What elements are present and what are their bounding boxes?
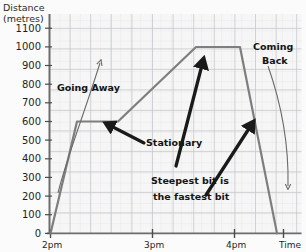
annotation-stationary: Stationary bbox=[146, 137, 203, 148]
y-tick-label-1000: 1000 bbox=[16, 41, 41, 52]
y-tick-label-300: 300 bbox=[22, 172, 41, 183]
annotation-coming-back-line1: Coming bbox=[253, 41, 293, 52]
y-tick-label-600: 600 bbox=[22, 116, 41, 127]
distance-time-chart: Distance (metres) 0 100 200 300 400 500 … bbox=[0, 0, 306, 252]
y-axis-title-line1: Distance bbox=[3, 2, 45, 13]
y-tick-label-400: 400 bbox=[22, 153, 41, 164]
chart-svg: Distance (metres) 0 100 200 300 400 500 … bbox=[0, 0, 306, 252]
y-tick-label-200: 200 bbox=[22, 191, 41, 202]
y-tick-label-1100: 1100 bbox=[16, 23, 41, 34]
annotation-going-away: Going Away bbox=[57, 82, 121, 93]
x-tick-label-4pm: 4pm bbox=[226, 240, 246, 250]
x-tick-label-3pm: 3pm bbox=[144, 240, 164, 250]
y-tick-label-100: 100 bbox=[22, 209, 41, 220]
annotation-coming-back-line2: Back bbox=[262, 55, 288, 66]
annotation-steepest-line1: Steepest bit is bbox=[151, 175, 229, 186]
y-tick-label-800: 800 bbox=[22, 79, 41, 90]
y-tick-label-700: 700 bbox=[22, 97, 41, 108]
x-axis-title: Time bbox=[278, 240, 301, 250]
x-tick-label-2pm: 2pm bbox=[42, 240, 62, 250]
y-tick-label-900: 900 bbox=[22, 60, 41, 71]
y-tick-label-0: 0 bbox=[35, 228, 41, 239]
y-tick-label-500: 500 bbox=[22, 135, 41, 146]
annotation-steepest-line2: the fastest bit bbox=[153, 191, 230, 202]
